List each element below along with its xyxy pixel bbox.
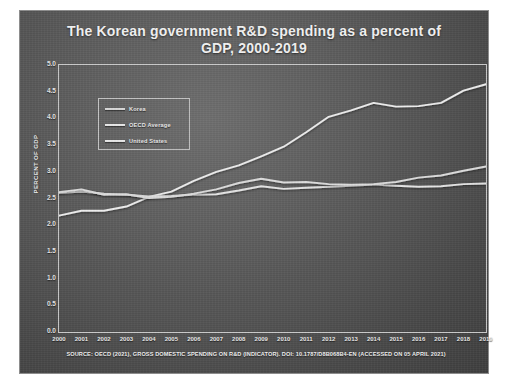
chart-title-line-1: The Korean government R&D spending as a …: [48, 23, 460, 40]
chart-title-line-2: GDP, 2000-2019: [48, 40, 460, 57]
y-axis-tick-label: 1.5: [34, 247, 56, 254]
x-axis-tick-labels: 2000200120022003200420052006200720082009…: [58, 336, 487, 348]
y-axis-tick-label: 4.0: [34, 113, 56, 120]
legend-item-oecd-average: OECD Average: [105, 119, 171, 131]
chart-title: The Korean government R&D spending as a …: [48, 23, 460, 57]
screenshot-root: The Korean government R&D spending as a …: [0, 0, 508, 387]
source-note: SOURCE: OECD (2021), GROSS DOMESTIC SPEN…: [56, 350, 456, 358]
y-axis-tick-label: 2.5: [34, 194, 56, 201]
legend-line-icon-united-states: [105, 140, 125, 142]
y-axis-tick-label: 0.5: [34, 300, 56, 307]
legend-label-korea: Korea: [129, 106, 146, 112]
chart-legend: Korea OECD Average United States: [98, 98, 190, 150]
y-axis-tick-label: 3.5: [34, 140, 56, 147]
y-axis-tick-label: 2.0: [34, 220, 56, 227]
legend-item-korea: Korea: [105, 103, 146, 115]
y-axis-tick-label: 3.0: [34, 167, 56, 174]
legend-line-icon-oecd-average: [105, 124, 125, 126]
y-axis-tick-label: 5.0: [34, 60, 56, 67]
plot-area: Korea OECD Average United States: [58, 64, 487, 333]
legend-line-icon-korea: [105, 108, 125, 110]
series-line-united-states: [59, 166, 486, 198]
x-axis-tick-label: 2019: [473, 336, 499, 342]
chart-panel: The Korean government R&D spending as a …: [20, 11, 488, 373]
y-axis-tick-label: 1.0: [34, 274, 56, 281]
legend-label-oecd-average: OECD Average: [129, 122, 171, 128]
y-axis-tick-label: 0.0: [34, 327, 56, 334]
legend-item-united-states: United States: [105, 135, 167, 147]
legend-label-united-states: United States: [129, 138, 167, 144]
y-axis-tick-label: 4.5: [34, 87, 56, 94]
y-axis-tick-labels: 0.00.51.01.52.02.53.03.54.04.55.0: [30, 64, 56, 333]
